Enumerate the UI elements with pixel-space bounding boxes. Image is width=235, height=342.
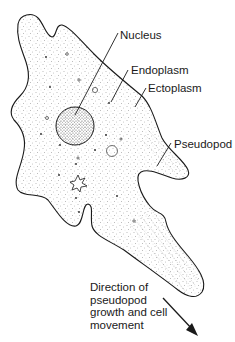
label-nucleus: Nucleus <box>120 29 162 42</box>
label-endoplasm: Endoplasm <box>131 64 189 77</box>
nucleus <box>56 107 94 145</box>
caption-direction: Direction of pseudopod growth and cell m… <box>90 281 180 331</box>
caption-line-3: growth and cell <box>90 306 180 319</box>
cell-membrane <box>11 15 204 297</box>
caption-line-1: Direction of <box>90 281 180 294</box>
label-pseudopod: Pseudopod <box>174 138 232 151</box>
label-ectoplasm: Ectoplasm <box>148 82 202 95</box>
caption-line-2: pseudopod <box>90 294 180 307</box>
caption-line-4: movement <box>90 319 180 332</box>
